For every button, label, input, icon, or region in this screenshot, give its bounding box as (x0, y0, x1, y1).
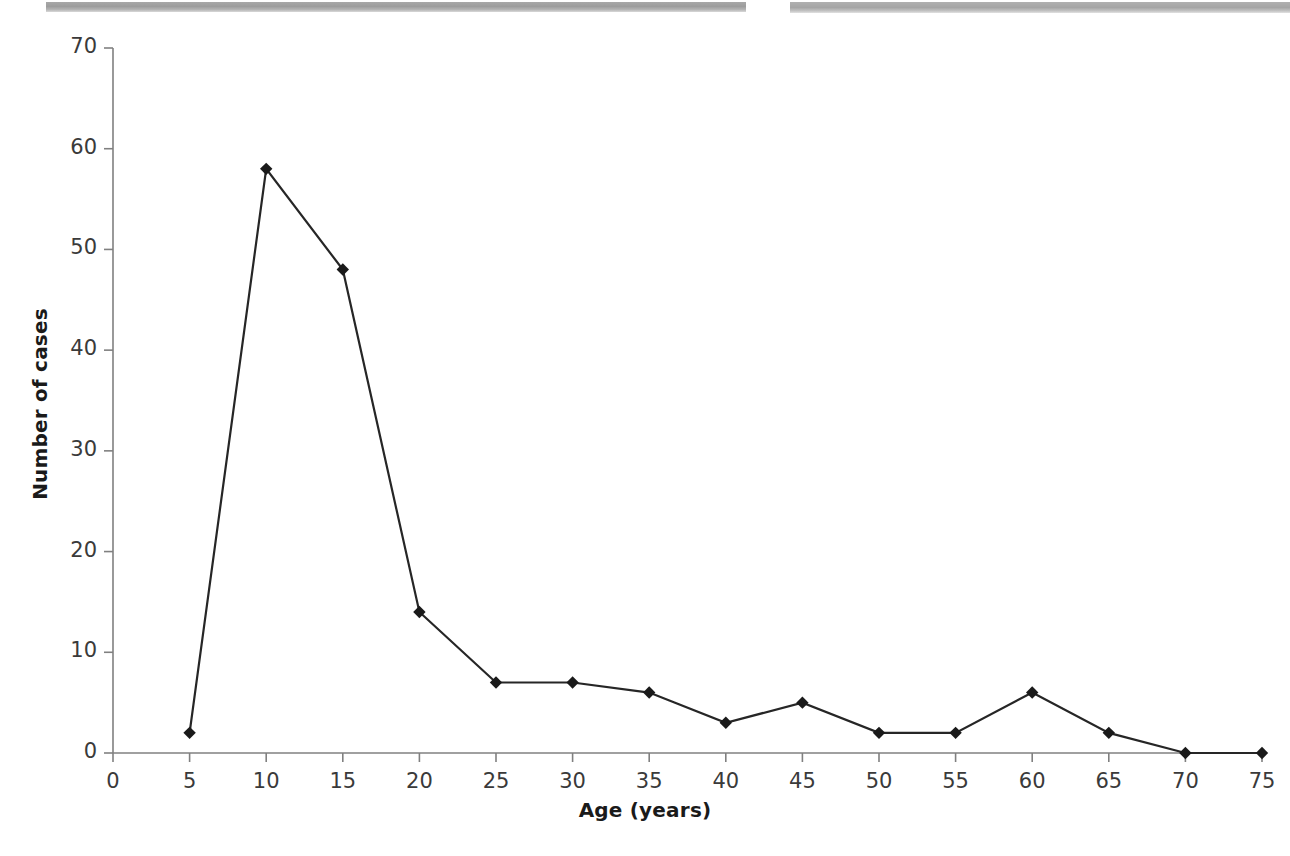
x-tick-label: 5 (155, 769, 225, 793)
x-tick-label: 20 (384, 769, 454, 793)
y-tick-label: 50 (27, 235, 97, 259)
x-tick-label: 25 (461, 769, 531, 793)
data-point-marker (949, 727, 961, 739)
x-tick-label: 45 (767, 769, 837, 793)
data-point-marker (873, 727, 885, 739)
data-point-marker (183, 727, 195, 739)
x-tick-label: 35 (614, 769, 684, 793)
data-point-marker (1179, 747, 1191, 759)
y-tick-label: 30 (27, 437, 97, 461)
y-tick-label: 60 (27, 135, 97, 159)
y-tick-label: 20 (27, 538, 97, 562)
data-point-marker (1026, 686, 1038, 698)
x-tick-label: 15 (308, 769, 378, 793)
data-point-marker (796, 696, 808, 708)
y-tick-label: 0 (27, 739, 97, 763)
data-point-markers (183, 163, 1268, 760)
data-point-marker (1256, 747, 1268, 759)
x-tick-label: 50 (844, 769, 914, 793)
x-tick-label: 10 (231, 769, 301, 793)
x-tick-label: 30 (538, 769, 608, 793)
x-tick-label: 0 (78, 769, 148, 793)
data-point-marker (720, 717, 732, 729)
x-tick-label: 75 (1227, 769, 1290, 793)
data-point-marker (566, 676, 578, 688)
x-axis-title: Age (years) (0, 798, 1290, 822)
y-tick-label: 10 (27, 638, 97, 662)
x-tick-label: 60 (997, 769, 1067, 793)
plot-canvas (0, 0, 1290, 856)
x-tick-label: 70 (1150, 769, 1220, 793)
y-tick-label: 40 (27, 336, 97, 360)
x-tick-label: 40 (691, 769, 761, 793)
axes-group (113, 48, 1262, 753)
tick-marks-group (104, 48, 1262, 762)
data-point-marker (643, 686, 655, 698)
x-tick-label: 65 (1074, 769, 1144, 793)
x-tick-label: 55 (921, 769, 991, 793)
y-axis-title: Number of cases (28, 304, 52, 504)
line-chart-figure: Number of cases Age (years) 010203040506… (0, 0, 1290, 856)
data-point-marker (1103, 727, 1115, 739)
y-tick-label: 70 (27, 34, 97, 58)
data-series-line (190, 169, 1262, 753)
